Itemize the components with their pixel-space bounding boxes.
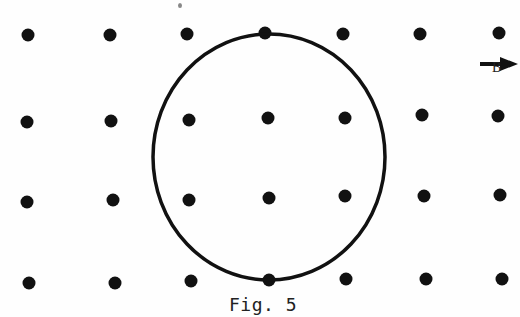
field-dot bbox=[494, 189, 507, 202]
field-dot bbox=[420, 273, 433, 286]
field-dot bbox=[23, 277, 36, 290]
field-dot bbox=[339, 190, 352, 203]
magnetic-field-diagram bbox=[0, 0, 520, 317]
field-dot bbox=[181, 28, 194, 41]
field-dot bbox=[416, 109, 429, 122]
field-dot bbox=[183, 114, 196, 127]
field-dot bbox=[339, 112, 352, 125]
field-dot bbox=[107, 194, 120, 207]
figure-caption: Fig. 5 bbox=[229, 294, 297, 315]
figure-5: B Fig. 5 bbox=[0, 0, 520, 317]
field-dots bbox=[21, 27, 509, 290]
field-dot bbox=[496, 273, 509, 286]
field-dot bbox=[337, 28, 350, 41]
field-dot bbox=[183, 194, 196, 207]
field-dot bbox=[104, 29, 117, 42]
field-dot bbox=[185, 275, 198, 288]
circular-loop bbox=[153, 34, 385, 280]
field-dot bbox=[21, 196, 34, 209]
field-dot bbox=[22, 29, 35, 42]
field-dot bbox=[263, 192, 276, 205]
field-dot bbox=[340, 273, 353, 286]
field-dot bbox=[418, 190, 431, 203]
field-dot bbox=[414, 28, 427, 41]
field-dot bbox=[492, 110, 505, 123]
field-dot bbox=[262, 112, 275, 125]
field-dot bbox=[109, 277, 122, 290]
field-dot bbox=[493, 27, 506, 40]
field-label: B bbox=[492, 60, 501, 76]
field-dot bbox=[21, 116, 34, 129]
field-dot bbox=[105, 115, 118, 128]
